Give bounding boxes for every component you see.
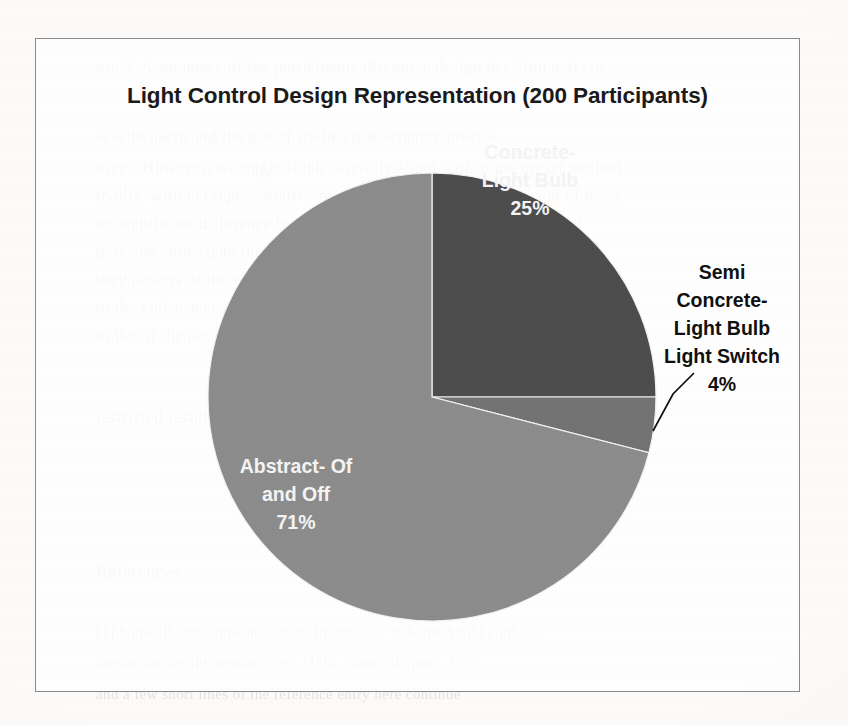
pie-chart-svg: Concrete- Light Bulb 25% Semi Concrete- … bbox=[36, 39, 801, 693]
slice-label-line: and Off bbox=[262, 483, 331, 505]
slice-label-line: Light Bulb bbox=[482, 169, 578, 191]
leader-line-group bbox=[653, 373, 694, 431]
slice-label-line: Concrete- bbox=[676, 289, 767, 311]
slice-percent: 4% bbox=[708, 373, 736, 395]
slice-label-semi-concrete-light-switch: Semi Concrete- Light Bulb Light Switch 4… bbox=[664, 261, 780, 395]
leader-line-semi-concrete bbox=[653, 373, 694, 431]
slice-label-line: Light Switch bbox=[664, 345, 780, 367]
slice-label-line: Concrete- bbox=[484, 141, 575, 163]
chart-figure-frame: Light Control Design Representation (200… bbox=[35, 38, 800, 692]
slice-label-line: Semi bbox=[699, 261, 746, 283]
pie-chart-plot-area: Concrete- Light Bulb 25% Semi Concrete- … bbox=[36, 39, 801, 693]
pie-slices bbox=[208, 173, 656, 621]
scanned-page: ure 2. A summary of the participants dis… bbox=[0, 0, 848, 725]
slice-percent: 71% bbox=[276, 511, 315, 533]
slice-percent: 25% bbox=[510, 197, 549, 219]
slice-label-line: Light Bulb bbox=[674, 317, 770, 339]
slice-label-line: Abstract- Of bbox=[240, 455, 353, 477]
